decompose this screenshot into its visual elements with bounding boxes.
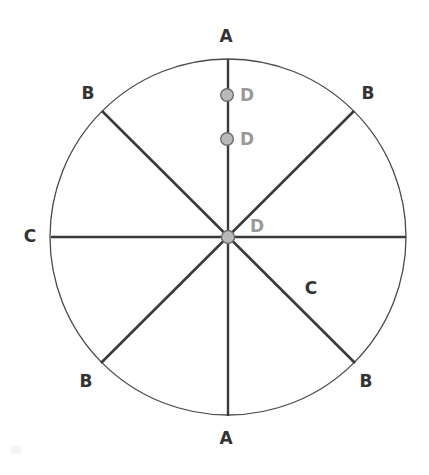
circle-diagram: A A B B B B C C D D D [0,0,429,475]
label-d-upper: D [240,87,254,104]
label-b-bottom-right: B [360,373,373,390]
label-a-bottom: A [219,430,232,447]
label-d-center: D [250,218,264,235]
label-b-top-right: B [362,85,375,102]
circle-diagram-canvas [0,0,429,475]
label-c-lower-right: C [305,280,317,297]
label-b-bottom-left: B [80,373,93,390]
label-d-middle: D [240,131,254,148]
label-c-left: C [24,228,36,245]
label-b-top-left: B [82,85,95,102]
point-marker-d-upper [221,89,234,102]
faint-corner-mark [11,446,21,454]
label-a-top: A [219,28,232,45]
point-marker-d-center [222,231,235,244]
point-marker-d-middle [221,133,234,146]
